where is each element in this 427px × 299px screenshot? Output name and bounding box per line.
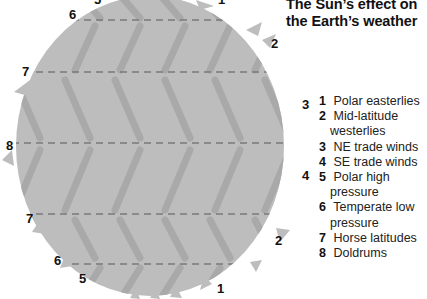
legend-item: 2 Mid-latitude westerlies — [319, 109, 427, 139]
legend-number: 4 — [319, 155, 330, 170]
legend-number: 2 — [319, 109, 330, 124]
earth-globe — [0, 0, 300, 299]
legend-item: 4 SE trade winds — [319, 155, 427, 170]
legend-item: 3 NE trade winds — [319, 140, 427, 155]
title-line-2: the Earth’s weather — [286, 13, 427, 30]
label-top-1: 1 — [218, 0, 225, 6]
legend-label: Mid-latitude westerlies — [330, 109, 398, 138]
legend-item: 5 Polar high pressure — [319, 170, 427, 200]
diagram-title: The Sun’s effect on the Earth’s weather — [286, 0, 427, 30]
legend-number: 5 — [319, 170, 330, 185]
legend-label: Doldrums — [333, 246, 387, 260]
legend-number: 1 — [319, 94, 330, 109]
label-top-2: 2 — [271, 37, 278, 50]
legend-label: Polar easterlies — [333, 94, 419, 108]
label-left-8: 8 — [6, 139, 13, 152]
globe-disc — [16, 0, 284, 296]
legend-number: 6 — [319, 200, 330, 215]
legend-number: 8 — [319, 246, 330, 261]
legend-item: 6 Temperate low pressure — [319, 200, 427, 230]
title-line-1: The Sun’s effect on — [286, 0, 427, 13]
label-right-4: 4 — [302, 169, 309, 182]
legend-item: 7 Horse latitudes — [319, 231, 427, 246]
legend-label: NE trade winds — [333, 140, 418, 154]
label-lower-7: 7 — [26, 212, 33, 225]
legend-item: 8 Doldrums — [319, 246, 427, 261]
legend-label: Temperate low pressure — [330, 200, 415, 229]
legend-number: 3 — [319, 140, 330, 155]
label-bottom-1: 1 — [217, 282, 224, 295]
legend-label: Horse latitudes — [333, 231, 416, 245]
legend-item: 1 Polar easterlies — [319, 94, 427, 109]
label-bottom-2: 2 — [275, 234, 282, 247]
label-right-3: 3 — [302, 98, 309, 111]
label-top-5: 5 — [94, 0, 101, 6]
legend: 1 Polar easterlies 2 Mid-latitude wester… — [319, 94, 427, 261]
legend-number: 7 — [319, 231, 330, 246]
label-bottom-5: 5 — [79, 272, 86, 285]
legend-label: SE trade winds — [333, 155, 417, 169]
label-upper-7: 7 — [22, 65, 29, 78]
label-bottom-6: 6 — [54, 254, 61, 267]
label-top-6: 6 — [69, 8, 76, 21]
legend-label: Polar high pressure — [330, 170, 390, 199]
